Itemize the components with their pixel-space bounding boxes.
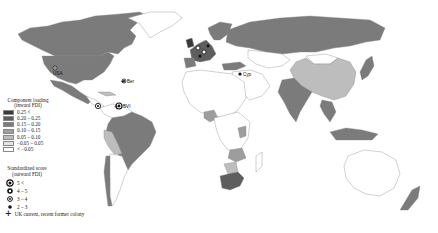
loading-legend: Component loading (inward FDI) 0.25 < 0.… bbox=[3, 98, 53, 153]
score-marker-usa bbox=[53, 66, 57, 70]
legend-row: < −0.05 bbox=[3, 147, 53, 153]
region-botswana bbox=[224, 162, 238, 174]
score-legend: Standardized score (outward FDI) 5 < 4 –… bbox=[3, 165, 51, 211]
score-marker-caribbean bbox=[95, 103, 100, 108]
region-new-zealand bbox=[400, 186, 420, 210]
swatch bbox=[3, 141, 14, 146]
uk-colony-marker: + bbox=[114, 103, 118, 109]
plus-icon: + bbox=[5, 210, 12, 218]
swatch bbox=[3, 147, 14, 152]
score-5plus-icon bbox=[6, 179, 14, 187]
map-label-bvi: BVI bbox=[123, 104, 130, 109]
uk-colony-marker: + bbox=[121, 78, 125, 84]
score-3to4-icon bbox=[6, 195, 14, 203]
region-indonesia bbox=[330, 128, 378, 140]
region-madagascar bbox=[256, 152, 262, 172]
score-marker-cyp bbox=[238, 72, 241, 75]
region-greenland bbox=[128, 12, 182, 38]
region-australia bbox=[344, 150, 400, 196]
swatch bbox=[3, 135, 14, 140]
region-se-asia bbox=[320, 100, 336, 122]
score-legend-title: Standardized score (outward FDI) bbox=[3, 165, 51, 177]
score-row: 5 < bbox=[6, 179, 51, 187]
region-japan bbox=[360, 56, 374, 80]
region-russia bbox=[226, 16, 385, 54]
region-mexico bbox=[50, 80, 92, 104]
map-label-cyp: Cyp bbox=[243, 72, 251, 77]
swatch bbox=[3, 110, 14, 115]
score-row: 4 – 5 bbox=[6, 187, 51, 195]
swatch bbox=[3, 122, 14, 127]
score-4to5-icon bbox=[6, 187, 14, 195]
region-zambia-zimbabwe bbox=[228, 148, 246, 162]
map-label-ber: Ber bbox=[127, 79, 134, 84]
swatch bbox=[3, 129, 14, 134]
score-row: 3 – 4 bbox=[6, 195, 51, 203]
region-iberia bbox=[184, 58, 196, 68]
world-map: + + bbox=[0, 0, 438, 233]
swatch bbox=[3, 116, 14, 121]
map-label-usa: USA bbox=[53, 71, 62, 76]
uk-colony-legend: + UK current, recent former colony bbox=[5, 210, 84, 218]
region-south-africa bbox=[220, 172, 244, 190]
loading-legend-title: Component loading (inward FDI) bbox=[3, 98, 53, 108]
region-uk-ireland bbox=[186, 38, 194, 48]
region-caribbean bbox=[98, 92, 116, 96]
region-turkey bbox=[222, 62, 246, 70]
